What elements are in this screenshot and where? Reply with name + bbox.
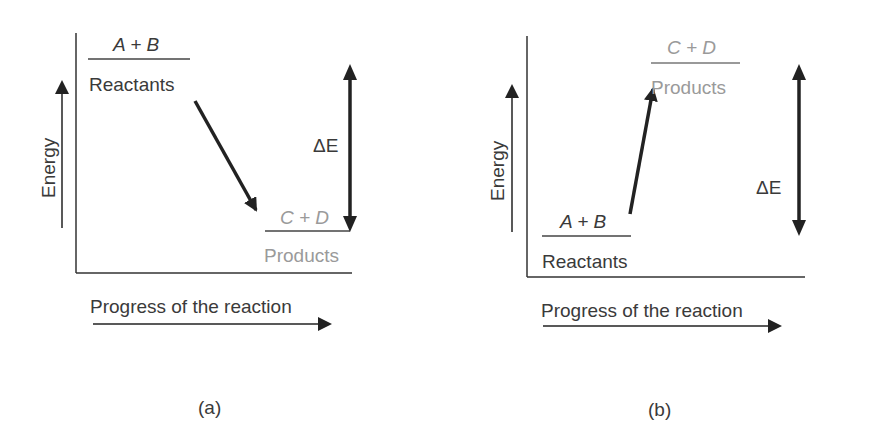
y-axis-label: Energy [487, 140, 508, 201]
y-axis-label: Energy [38, 137, 59, 198]
reaction-arrow-icon [630, 89, 653, 214]
reactants-label: Reactants [89, 74, 175, 95]
reaction-arrow-icon [195, 101, 256, 210]
x-axis-label: Progress of the reaction [90, 296, 292, 317]
reactants-formula: A + B [112, 34, 160, 55]
reactants-formula: A + B [559, 211, 607, 232]
products-label: Products [651, 77, 726, 98]
products-formula: C + D [667, 37, 716, 58]
caption-a: (a) [198, 397, 221, 418]
panel-b: Energy A + B Reactants C + D Products ΔE… [487, 36, 806, 420]
products-label: Products [264, 245, 339, 266]
reactants-label: Reactants [542, 251, 628, 272]
delta-e-label: ΔE [313, 135, 338, 156]
delta-e-label: ΔE [756, 177, 781, 198]
x-axis-label: Progress of the reaction [541, 300, 743, 321]
panel-a: Energy A + B Reactants C + D Products ΔE… [38, 33, 357, 418]
energy-diagrams: Energy A + B Reactants C + D Products ΔE… [0, 0, 871, 446]
caption-b: (b) [648, 399, 671, 420]
products-formula: C + D [280, 207, 329, 228]
